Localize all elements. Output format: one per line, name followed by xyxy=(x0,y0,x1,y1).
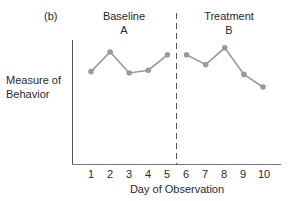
data-point-marker xyxy=(203,62,209,68)
data-point-marker xyxy=(165,52,171,58)
data-point-marker xyxy=(184,52,190,58)
plot-area xyxy=(0,0,290,201)
data-point-marker xyxy=(241,72,247,78)
series-line xyxy=(91,52,167,73)
data-point-marker xyxy=(260,84,266,90)
data-point-marker xyxy=(107,49,113,55)
data-point-marker xyxy=(146,67,152,73)
series-line xyxy=(187,48,263,87)
data-point-marker xyxy=(126,70,132,76)
data-point-marker xyxy=(222,45,228,51)
data-point-marker xyxy=(88,69,94,75)
